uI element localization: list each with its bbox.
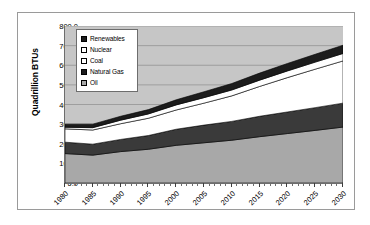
x-tick-mark-minor: [153, 183, 154, 186]
legend-swatch-icon: [81, 69, 87, 75]
x-tick-label: 2025: [302, 189, 320, 207]
x-tick-mark-minor: [275, 183, 276, 186]
x-tick-mark-minor: [298, 183, 299, 186]
x-tick-mark-minor: [97, 183, 98, 186]
x-tick-label: 2005: [191, 189, 209, 207]
x-tick-label: 2030: [330, 189, 348, 207]
x-tick-mark-minor: [320, 183, 321, 186]
x-tick-mark-minor: [170, 183, 171, 186]
legend-item: Renewables: [81, 33, 134, 44]
x-tick-mark-minor: [225, 183, 226, 186]
x-tick-mark-major: [259, 183, 260, 187]
x-tick-mark-minor: [264, 183, 265, 186]
x-tick-label: 2020: [274, 189, 292, 207]
x-tick-mark-minor: [331, 183, 332, 186]
x-tick-mark-minor: [242, 183, 243, 186]
x-tick-mark-minor: [75, 183, 76, 186]
x-tick-mark-minor: [220, 183, 221, 186]
x-tick-mark-minor: [309, 183, 310, 186]
chart-legend: RenewablesNuclearCoalNatural GasOil: [76, 29, 138, 92]
x-tick-mark-minor: [325, 183, 326, 186]
x-tick-mark-major: [286, 183, 287, 187]
legend-swatch-icon: [81, 80, 87, 86]
legend-item: Coal: [81, 55, 134, 66]
x-tick-mark-minor: [86, 183, 87, 186]
x-tick-mark-minor: [131, 183, 132, 186]
x-tick-mark-minor: [142, 183, 143, 186]
legend-label: Nuclear: [90, 46, 112, 53]
x-tick-label: 1990: [107, 189, 125, 207]
x-tick-mark-major: [203, 183, 204, 187]
x-tick-mark-minor: [103, 183, 104, 186]
x-tick-mark-minor: [303, 183, 304, 186]
x-tick-mark-major: [342, 183, 343, 187]
x-tick-mark-minor: [125, 183, 126, 186]
x-tick-mark-minor: [192, 183, 193, 186]
legend-swatch-icon: [81, 58, 87, 64]
x-tick-label: 2015: [246, 189, 264, 207]
x-tick-mark-minor: [108, 183, 109, 186]
x-tick-label: 1980: [52, 189, 70, 207]
y-axis-title: Quadrillion BTUs: [30, 32, 40, 132]
x-tick-mark-major: [92, 183, 93, 187]
legend-label: Natural Gas: [90, 68, 124, 75]
x-tick-label: 2010: [219, 189, 237, 207]
x-tick-mark-minor: [81, 183, 82, 186]
x-tick-mark-major: [120, 183, 121, 187]
chart-frame: Quadrillion BTUs 800.0700.0600.0500.0400…: [17, 12, 355, 210]
x-tick-mark-minor: [236, 183, 237, 186]
x-tick-mark-minor: [281, 183, 282, 186]
legend-label: Renewables: [90, 35, 125, 42]
x-tick-mark-minor: [164, 183, 165, 186]
legend-item: Natural Gas: [81, 66, 134, 77]
x-tick-mark-major: [64, 183, 65, 187]
x-tick-mark-major: [231, 183, 232, 187]
x-tick-mark-minor: [253, 183, 254, 186]
x-tick-label: 1995: [135, 189, 153, 207]
legend-swatch-icon: [81, 36, 87, 42]
legend-item: Oil: [81, 77, 134, 88]
legend-item: Nuclear: [81, 44, 134, 55]
x-tick-mark-minor: [197, 183, 198, 186]
x-tick-mark-minor: [270, 183, 271, 186]
x-tick-mark-minor: [214, 183, 215, 186]
x-tick-mark-major: [175, 183, 176, 187]
x-tick-mark-minor: [70, 183, 71, 186]
x-tick-mark-minor: [136, 183, 137, 186]
legend-label: Coal: [90, 57, 103, 64]
x-tick-mark-minor: [181, 183, 182, 186]
x-tick-mark-major: [147, 183, 148, 187]
x-tick-label: 1985: [80, 189, 98, 207]
x-tick-mark-major: [314, 183, 315, 187]
x-tick-mark-minor: [247, 183, 248, 186]
legend-swatch-icon: [81, 47, 87, 53]
legend-label: Oil: [90, 79, 98, 86]
x-tick-mark-minor: [114, 183, 115, 186]
x-tick-mark-minor: [209, 183, 210, 186]
x-tick-mark-minor: [336, 183, 337, 186]
x-tick-mark-minor: [159, 183, 160, 186]
x-tick-mark-minor: [292, 183, 293, 186]
x-tick-mark-minor: [186, 183, 187, 186]
x-tick-label: 2000: [163, 189, 181, 207]
x-axis-tick-labels: 1980198519901995200020052010201520202025…: [64, 183, 343, 223]
